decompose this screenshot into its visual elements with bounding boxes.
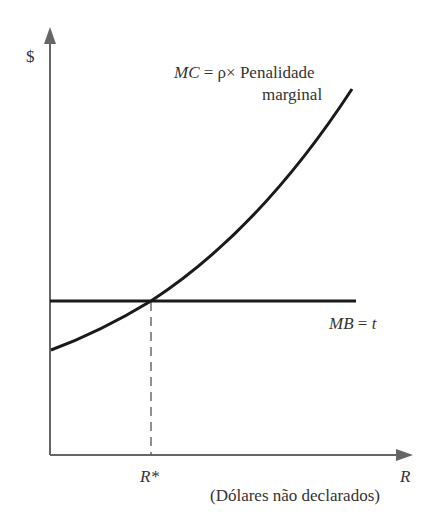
mc-label-line2: marginal [262,86,322,103]
y-axis-arrow-icon [44,27,56,44]
mc-curve [51,89,352,350]
mc-eq: = ρ× Penalidade [200,63,315,82]
mc-label-line1: MC = ρ× Penalidade [174,64,315,81]
mb-var: MB [329,314,354,333]
y-axis-label: $ [26,48,35,65]
x-axis-sublabel: (Dólares não declarados) [210,487,380,504]
mb-label: MB = t [329,315,376,332]
x-axis-label: R [400,468,410,485]
mb-eq: = [354,314,372,333]
x-axis-arrow-icon [396,449,413,461]
mc-var: MC [174,63,200,82]
r-star-label: R* [140,468,159,485]
mb-t: t [372,314,377,333]
